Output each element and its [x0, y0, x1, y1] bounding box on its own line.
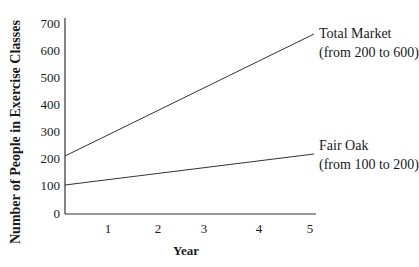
y-axis-label: Number of People in Exercise Classes	[8, 44, 24, 244]
x-tick-4: 4	[249, 221, 269, 237]
x-tick-3: 3	[194, 221, 214, 237]
x-tick-5: 5	[300, 221, 320, 237]
x-axis-label: Year	[166, 243, 206, 259]
total-market-label: Total Market (from 200 to 600)	[319, 24, 419, 62]
fair-oak-label: Fair Oak (from 100 to 200)	[319, 136, 419, 174]
total-market-name: Total Market	[319, 24, 419, 43]
y-tick-0: 0	[34, 207, 60, 221]
x-tick-1: 1	[98, 221, 118, 237]
y-tick-100: 100	[34, 179, 60, 193]
fair-oak-note: (from 100 to 200)	[319, 155, 419, 174]
y-tick-600: 600	[34, 44, 60, 58]
fair-oak-name: Fair Oak	[319, 136, 419, 155]
x-tick-2: 2	[148, 221, 168, 237]
fair-oak-line	[65, 154, 314, 185]
y-tick-700: 700	[34, 17, 60, 31]
y-tick-300: 300	[34, 125, 60, 139]
y-tick-500: 500	[34, 71, 60, 85]
y-tick-400: 400	[34, 98, 60, 112]
total-market-note: (from 200 to 600)	[319, 43, 419, 62]
total-market-line	[65, 34, 314, 156]
y-tick-200: 200	[34, 152, 60, 166]
